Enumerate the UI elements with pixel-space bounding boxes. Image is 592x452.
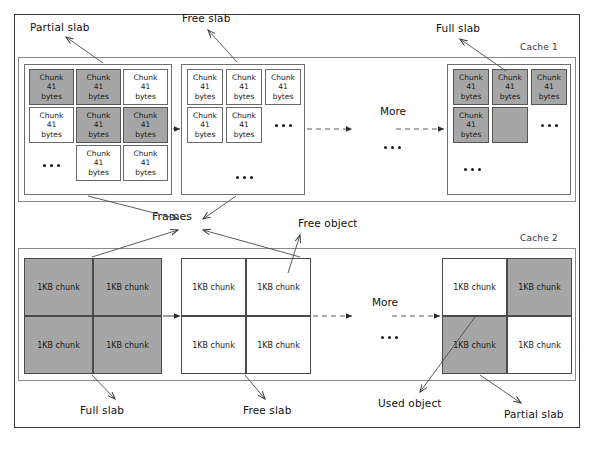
chunk-label-line2: 41 [47, 120, 57, 129]
chunk-label-line2: 41 [466, 120, 476, 129]
chunk-cell-used: Chunk 41 bytes [453, 107, 489, 143]
object-label: 1KB chunk [37, 341, 80, 350]
object-label: 1KB chunk [453, 283, 496, 292]
chunk-cell-used: Chunk 41 bytes [531, 69, 567, 105]
chunk-cell-used: Chunk 41 bytes [29, 69, 74, 105]
object-label: 1KB chunk [192, 283, 235, 292]
chunk-label-line1: Chunk [459, 111, 483, 120]
chunk-label-line3: bytes [234, 92, 255, 101]
chunk-label-line1: Chunk [193, 73, 217, 82]
ellipsis-icon [455, 165, 489, 173]
chunk-label-line3: bytes [41, 130, 62, 139]
object-cell-free: 1KB chunk [507, 316, 572, 374]
cache1-partial-slab: Chunk 41 bytes Chunk 41 bytes Chunk 41 b… [24, 64, 172, 195]
object-cell-used: 1KB chunk [24, 316, 93, 374]
chunk-label-line2: 41 [94, 120, 104, 129]
cache1-free-slab: Chunk 41 bytes Chunk 41 bytes Chunk 41 b… [181, 64, 305, 195]
chunk-label-line1: Chunk [232, 73, 256, 82]
object-cell-used: 1KB chunk [93, 258, 162, 316]
ellipsis-icon [266, 121, 300, 129]
chunk-label-line1: Chunk [134, 73, 158, 82]
cache2-more-label: More [372, 296, 398, 308]
cache-1-label: Cache 1 [520, 42, 558, 52]
ellipsis-icon [227, 173, 261, 181]
chunk-label-line3: bytes [135, 92, 156, 101]
chunk-label-line1: Chunk [134, 111, 158, 120]
chunk-cell-free: Chunk 41 bytes [187, 107, 223, 143]
chunk-label-line3: bytes [88, 92, 109, 101]
chunk-label-line1: Chunk [40, 73, 64, 82]
object-cell-used: 1KB chunk [507, 258, 572, 316]
object-cell-used: 1KB chunk [24, 258, 93, 316]
cache2-partial-slab: 1KB chunk 1KB chunk 1KB chunk 1KB chunk [442, 258, 572, 374]
object-cell-free: 1KB chunk [246, 316, 311, 374]
ellipsis-icon [532, 121, 566, 129]
chunk-label-line2: 41 [47, 82, 57, 91]
chunk-cell-used-blank [492, 107, 528, 143]
chunk-label-line3: bytes [135, 130, 156, 139]
object-cell-used: 1KB chunk [93, 316, 162, 374]
ellipsis-icon [33, 161, 69, 169]
chunk-label-line1: Chunk [87, 73, 111, 82]
object-label: 1KB chunk [106, 283, 149, 292]
chunk-label-line2: 41 [200, 82, 210, 91]
annotation-used-object: Used object [378, 397, 442, 409]
object-cell-free: 1KB chunk [442, 258, 507, 316]
chunk-cell-used: Chunk 41 bytes [453, 69, 489, 105]
chunk-label-line3: bytes [234, 130, 255, 139]
object-cell-free: 1KB chunk [246, 258, 311, 316]
chunk-label-line3: bytes [195, 130, 216, 139]
annotation-full-slab-bottom: Full slab [80, 404, 124, 416]
object-label: 1KB chunk [453, 341, 496, 350]
cache-2-label: Cache 2 [520, 233, 558, 243]
object-label: 1KB chunk [518, 283, 561, 292]
ellipsis-icon [368, 333, 410, 341]
diagram-canvas: Cache 1 Chunk 41 bytes Chunk 41 bytes Ch… [0, 0, 592, 452]
chunk-cell-free: Chunk 41 bytes [226, 69, 262, 105]
chunk-label-line3: bytes [41, 92, 62, 101]
chunk-label-line1: Chunk [40, 111, 64, 120]
chunk-label-line3: bytes [500, 92, 521, 101]
object-label: 1KB chunk [257, 283, 300, 292]
chunk-cell-used: Chunk 41 bytes [492, 69, 528, 105]
chunk-label-line2: 41 [94, 158, 104, 167]
cache2-free-slab: 1KB chunk 1KB chunk 1KB chunk 1KB chunk [181, 258, 311, 374]
cache2-full-slab: 1KB chunk 1KB chunk 1KB chunk 1KB chunk [24, 258, 162, 374]
chunk-label-line1: Chunk [498, 73, 522, 82]
chunk-label-line2: 41 [505, 82, 515, 91]
chunk-label-line3: bytes [195, 92, 216, 101]
object-cell-free: 1KB chunk [181, 258, 246, 316]
object-label: 1KB chunk [106, 341, 149, 350]
chunk-label-line2: 41 [544, 82, 554, 91]
chunk-label-line1: Chunk [232, 111, 256, 120]
annotation-frames: Frames [152, 210, 192, 223]
chunk-label-line3: bytes [88, 168, 109, 177]
chunk-label-line2: 41 [141, 120, 151, 129]
chunk-label-line1: Chunk [193, 111, 217, 120]
chunk-cell-free: Chunk 41 bytes [226, 107, 262, 143]
annotation-full-slab-top: Full slab [436, 22, 480, 34]
cache1-more-label: More [380, 105, 406, 117]
object-cell-free: 1KB chunk [181, 316, 246, 374]
chunk-label-line1: Chunk [87, 111, 111, 120]
chunk-label-line3: bytes [88, 130, 109, 139]
chunk-cell-free: Chunk 41 bytes [29, 107, 74, 143]
object-label: 1KB chunk [37, 283, 80, 292]
chunk-label-line3: bytes [461, 92, 482, 101]
chunk-label-line1: Chunk [87, 149, 111, 158]
chunk-cell-used: Chunk 41 bytes [76, 69, 121, 105]
chunk-cell-free: Chunk 41 bytes [187, 69, 223, 105]
annotation-free-object: Free object [298, 217, 358, 229]
chunk-cell-used: Chunk 41 bytes [76, 107, 121, 143]
chunk-label-line1: Chunk [134, 149, 158, 158]
annotation-free-slab-top: Free slab [182, 12, 230, 24]
cache1-full-slab: Chunk 41 bytes Chunk 41 bytes Chunk 41 b… [447, 64, 571, 195]
chunk-label-line2: 41 [466, 82, 476, 91]
chunk-label-line3: bytes [135, 168, 156, 177]
chunk-label-line3: bytes [273, 92, 294, 101]
object-label: 1KB chunk [257, 341, 300, 350]
chunk-cell-used: Chunk 41 bytes [123, 107, 168, 143]
chunk-cell-free: Chunk 41 bytes [123, 69, 168, 105]
chunk-label-line2: 41 [141, 82, 151, 91]
annotation-partial-slab-bottom: Partial slab [504, 408, 564, 420]
